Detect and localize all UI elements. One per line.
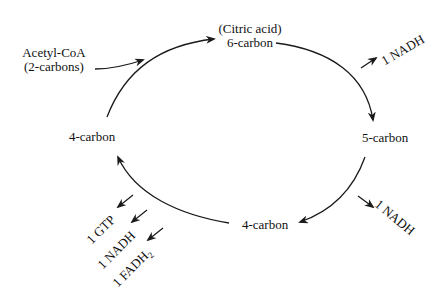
arrow-acetyl-coa-input bbox=[95, 60, 143, 69]
citric-acid-label: (Citric acid) bbox=[208, 22, 292, 36]
arrow-6c-to-5c bbox=[276, 43, 373, 120]
node-four-carbon-bottom: 4-carbon bbox=[242, 218, 288, 232]
node-six-carbon: (Citric acid) 6-carbon bbox=[208, 22, 292, 50]
arrow-5c-to-4c bbox=[300, 157, 365, 222]
arrow-nadh-out-1 bbox=[361, 58, 376, 68]
arrow-nadh-out-3 bbox=[132, 210, 147, 222]
node-four-carbon-left: 4-carbon bbox=[69, 130, 115, 144]
arrow-4c-to-4c bbox=[118, 157, 229, 223]
node-acetyl-coa: Acetyl-CoA (2-carbons) bbox=[14, 46, 94, 74]
arrow-fadh2-out bbox=[148, 228, 163, 240]
six-carbon-label: 6-carbon bbox=[208, 36, 292, 50]
arrow-gtp-out bbox=[118, 195, 133, 207]
acetyl-coa-label: Acetyl-CoA bbox=[14, 46, 94, 60]
node-five-carbon: 5-carbon bbox=[362, 131, 408, 145]
arrow-nadh-out-2 bbox=[358, 196, 373, 207]
arrow-4c-to-6c bbox=[107, 39, 214, 117]
acetyl-coa-carbons-label: (2-carbons) bbox=[14, 60, 94, 74]
